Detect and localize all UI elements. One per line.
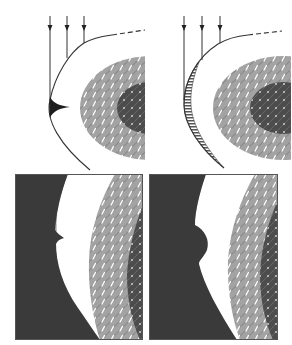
arrowhead-icon <box>82 25 87 31</box>
panel-top-right <box>182 16 292 168</box>
core-region <box>117 82 183 134</box>
panel-bottom-left <box>15 174 143 340</box>
arrowhead-icon <box>48 25 53 31</box>
arrowhead-icon <box>200 25 205 31</box>
hatched-region <box>80 56 220 160</box>
panel-top-left <box>48 16 221 170</box>
arrowhead-icon <box>182 25 187 31</box>
panel-bottom-right <box>149 174 278 340</box>
arrowhead-icon <box>65 25 70 31</box>
boundary-dashed <box>248 31 282 35</box>
spike-feature <box>49 97 70 118</box>
boundary-dashed <box>112 30 145 35</box>
figure-canvas <box>0 0 291 345</box>
arrowhead-icon <box>218 25 223 31</box>
